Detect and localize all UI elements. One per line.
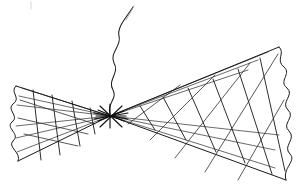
figure-canvas xyxy=(0,0,301,188)
canvas-background xyxy=(0,0,301,188)
line-drawing-figure xyxy=(0,0,301,188)
